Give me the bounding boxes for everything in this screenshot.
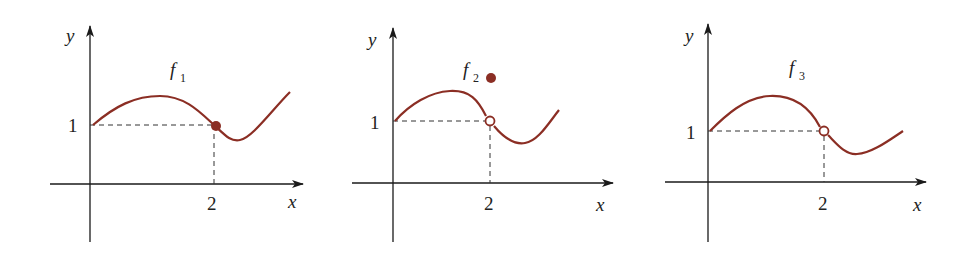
function-subscript: 3 <box>799 69 805 83</box>
y-label: y <box>366 29 377 50</box>
graph-f3: y x 1 2 f 3 <box>665 24 926 242</box>
function-name: f <box>789 57 797 78</box>
curve-f2-right <box>494 110 559 143</box>
x-tick-label: 2 <box>818 193 828 214</box>
graph-f2: y x 1 2 f 2 <box>352 28 613 242</box>
y-tick-label: 1 <box>686 122 696 143</box>
open-point <box>486 117 495 126</box>
curve-f2 <box>395 91 486 121</box>
curve-f3 <box>710 96 820 131</box>
x-label: x <box>912 194 922 215</box>
function-name: f <box>170 59 178 80</box>
filled-point <box>486 73 496 83</box>
function-name: f <box>463 59 471 80</box>
function-subscript: 2 <box>473 71 479 85</box>
y-label: y <box>64 25 75 46</box>
y-tick-label: 1 <box>370 112 380 133</box>
curve-f3-right <box>828 131 903 154</box>
three-function-graphs: y x 1 2 f 1 y x 1 2 f 2 y x 1 2 f 3 <box>0 0 961 257</box>
x-tick-label: 2 <box>484 193 494 214</box>
y-tick-label: 1 <box>68 115 78 136</box>
x-label: x <box>287 191 297 212</box>
graph-f1: y x 1 2 f 1 <box>50 25 303 242</box>
function-subscript: 1 <box>180 71 186 85</box>
x-tick-label: 2 <box>207 193 217 214</box>
filled-point <box>211 121 221 131</box>
y-label: y <box>683 25 694 46</box>
x-label: x <box>595 194 605 215</box>
curve-f1 <box>93 92 290 140</box>
open-point <box>820 127 829 136</box>
